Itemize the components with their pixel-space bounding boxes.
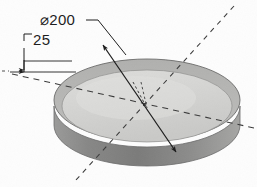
technical-drawing-canvas: ⌀200 25 bbox=[0, 0, 257, 187]
disc-drawing: ⌀200 25 bbox=[0, 0, 257, 187]
paper-grain-overlay bbox=[0, 0, 257, 187]
